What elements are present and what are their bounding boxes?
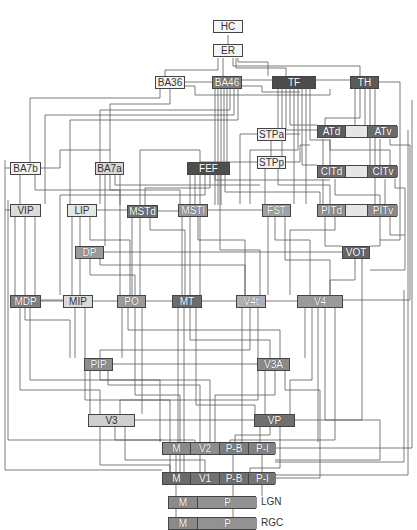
segment-p-b: P-B	[220, 443, 249, 454]
segment-atd: ATd	[318, 126, 346, 137]
area-node-ba36: BA36	[155, 76, 185, 89]
area-node-mstd: MSTd	[127, 205, 158, 218]
area-node-fef: FEF	[187, 162, 230, 175]
area-node-hc: HC	[213, 20, 243, 33]
segment-p: P	[198, 518, 257, 529]
segment-p-b: P-B	[220, 473, 249, 484]
segment-p: P	[198, 497, 257, 508]
area-node-mip: MIP	[63, 295, 93, 308]
segment-citd: CITd	[318, 166, 346, 177]
compound-node-lgn: MP	[168, 496, 256, 509]
area-node-th: TH	[350, 76, 379, 89]
segment-m: M	[163, 443, 191, 454]
area-node-stpa: STPa	[257, 128, 286, 141]
compound-node-citcomplex: CITdCITv	[317, 165, 397, 178]
area-node-pip: PIP	[84, 358, 113, 371]
area-node-er: ER	[213, 44, 243, 57]
area-node-ba7a: BA7a	[95, 162, 124, 175]
area-node-v3: V3	[88, 414, 135, 427]
area-node-mdp: MDP	[10, 295, 41, 308]
segment-v1: V1	[191, 473, 220, 484]
compound-node-v1: MV1P-BP-I	[162, 472, 275, 485]
area-node-mstl: MSTl	[178, 204, 208, 217]
segment-citv: CITv	[368, 166, 398, 177]
level-label-lgn: LGN	[261, 496, 282, 507]
compound-node-v2: MV2P-BP-I	[162, 442, 275, 455]
segment-atv: ATv	[368, 126, 398, 137]
area-node-stpp: STPp	[257, 156, 286, 169]
segment-p-i: P-I	[249, 443, 276, 454]
compound-node-rgc: MP	[168, 517, 256, 530]
compound-node-atcomplex: ATdATv	[317, 125, 397, 138]
area-node-mt: MT	[172, 295, 202, 308]
area-node-vip: VIP	[10, 204, 41, 217]
segment-m: M	[163, 473, 191, 484]
segment-p-i: P-I	[249, 473, 276, 484]
area-node-lip: LIP	[67, 204, 97, 217]
area-node-v4t: V4t	[236, 295, 266, 308]
area-node-fst: FST	[262, 204, 291, 217]
area-node-vot: VOT	[342, 246, 370, 259]
segment-pitd: PITd	[318, 205, 346, 216]
segment-m: M	[169, 518, 198, 529]
area-node-v3a: V3A	[257, 358, 290, 371]
area-node-tf: TF	[272, 76, 316, 89]
segment-v2: V2	[191, 443, 220, 454]
level-label-rgc: RGC	[261, 517, 283, 528]
area-node-v4: V4	[297, 295, 343, 308]
area-node-ba46: BA46	[212, 76, 242, 89]
segment-spacer	[346, 126, 368, 137]
segment-spacer	[346, 166, 368, 177]
area-node-vp: VP	[254, 414, 295, 427]
compound-node-pitcomplex: PITdPITv	[317, 204, 397, 217]
area-node-po: PO	[117, 295, 146, 308]
segment-m: M	[169, 497, 198, 508]
area-node-ba7b: BA7b	[10, 162, 41, 175]
segment-spacer	[346, 205, 368, 216]
segment-pitv: PITv	[368, 205, 398, 216]
area-node-dp: DP	[75, 246, 104, 259]
